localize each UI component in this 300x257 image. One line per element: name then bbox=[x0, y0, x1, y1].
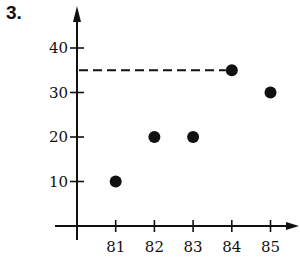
y-tick-label: 40 bbox=[49, 39, 68, 57]
y-tick-label: 10 bbox=[49, 173, 68, 191]
y-axis-arrow-icon bbox=[73, 6, 81, 22]
axes bbox=[55, 6, 299, 240]
data-point bbox=[265, 87, 277, 99]
data-point bbox=[148, 131, 160, 143]
y-tick-label: 20 bbox=[49, 128, 68, 146]
scatter-chart: 818283848510203040 bbox=[0, 0, 300, 257]
data-point bbox=[226, 64, 238, 76]
ticks: 818283848510203040 bbox=[49, 39, 280, 256]
data-point bbox=[187, 131, 199, 143]
x-tick-label: 81 bbox=[106, 238, 125, 256]
x-tick-label: 84 bbox=[222, 238, 241, 256]
data-points bbox=[110, 64, 277, 187]
x-tick-label: 82 bbox=[145, 238, 164, 256]
y-tick-label: 30 bbox=[49, 84, 68, 102]
data-point bbox=[110, 176, 122, 188]
x-tick-label: 83 bbox=[184, 238, 203, 256]
x-axis-arrow-icon bbox=[286, 222, 299, 230]
x-tick-label: 85 bbox=[261, 238, 280, 256]
